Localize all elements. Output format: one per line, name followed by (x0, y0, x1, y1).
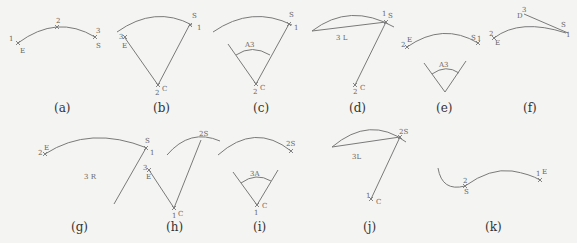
label: 1 (536, 170, 540, 178)
caption: (e) (436, 101, 452, 115)
label: S (192, 12, 197, 20)
label: S (464, 188, 469, 196)
point-marker (255, 203, 259, 207)
label: E (407, 36, 412, 44)
panel-e: 2 E S 1 A3 (e) (401, 33, 481, 115)
label: S (289, 11, 294, 19)
label: C (178, 210, 183, 218)
angle-side (257, 170, 278, 205)
label: 3 (96, 27, 100, 35)
arc (332, 130, 406, 147)
label: 1 (382, 10, 386, 18)
label: 1 (366, 192, 370, 200)
panel-c: S 1 A3 2 C (c) (213, 11, 298, 115)
label: 2 (463, 177, 467, 185)
point-marker (353, 83, 357, 87)
label: 1 (294, 24, 298, 32)
label: E (20, 47, 25, 55)
label: 3 (143, 164, 147, 172)
label: 3A (250, 170, 260, 178)
label: 1 (150, 149, 154, 157)
caption: (b) (153, 101, 170, 115)
label: 3 (119, 33, 123, 41)
label: S (471, 34, 476, 42)
panel-g: 2 E S 1 3 R (g) (38, 137, 154, 234)
label: 2S (199, 130, 208, 138)
label: 2S (286, 140, 295, 148)
caption: (i) (253, 220, 266, 234)
label: A3 (438, 61, 449, 69)
label: 3L (352, 153, 361, 161)
construction-diagram: 1 E 2 3 S (a) 3 E S 1 2 C (b) S 1 A3 2 C… (0, 0, 577, 243)
caption: (d) (349, 101, 366, 115)
label: 2 (253, 88, 257, 96)
radius-line (174, 140, 201, 208)
caption: (j) (363, 220, 376, 234)
chord-line (332, 137, 400, 147)
label: 2 (38, 149, 42, 157)
panel-a: 1 E 2 3 S (a) (9, 17, 101, 115)
arc (167, 137, 220, 155)
radius-line (125, 38, 158, 85)
arc (18, 27, 95, 43)
label: A3 (244, 41, 255, 49)
radius-line (355, 22, 386, 85)
curve (438, 168, 540, 187)
arc (117, 16, 192, 32)
label: E (146, 173, 151, 181)
caption: (k) (485, 220, 502, 234)
label: C (162, 85, 167, 93)
label: 2S (399, 128, 408, 136)
angle-arc (236, 50, 270, 56)
radius-line (149, 170, 174, 208)
panel-f: D 3 2 E S 1 (f) (489, 6, 570, 115)
label: 2 (56, 17, 60, 25)
arc (218, 137, 291, 155)
caption: (h) (166, 220, 183, 234)
label: 1 (9, 35, 13, 43)
point-marker (43, 152, 47, 156)
label: 3 R (84, 173, 97, 181)
label: C (260, 84, 265, 92)
label: S (96, 42, 101, 50)
radius-line (256, 24, 289, 84)
label: E (44, 144, 49, 152)
label: 2 (401, 41, 405, 49)
panel-b: 3 E S 1 2 C (b) (117, 12, 201, 115)
panel-j: 3L 2S 1 C (j) (332, 128, 408, 234)
label: C (360, 84, 365, 92)
panel-k: 2 S 1 E (k) (438, 168, 547, 234)
label: 3 (522, 6, 526, 14)
label: 2 (353, 88, 357, 96)
angle-arc (432, 69, 459, 74)
arc (494, 27, 566, 38)
radius-line (371, 137, 400, 199)
point-marker (254, 82, 258, 86)
panel-d: 3 L 1 S 2 C (d) (312, 10, 394, 115)
label: S (145, 137, 150, 145)
caption: (g) (71, 220, 88, 234)
label: E (542, 168, 547, 176)
label: 3 L (336, 34, 348, 42)
panel-i: 2S 3A 1 C (i) (218, 137, 295, 234)
point-marker (289, 149, 293, 153)
label: C (376, 198, 381, 206)
point-marker (144, 146, 148, 150)
label: 2 (155, 89, 159, 97)
radius-line (114, 148, 146, 204)
label: 1 (477, 35, 481, 43)
point-marker (93, 35, 97, 39)
label: 1 (566, 31, 570, 39)
radius-line (158, 24, 190, 85)
label: E (495, 39, 500, 47)
arc (407, 33, 478, 47)
label: 1 (197, 24, 201, 32)
point-marker (147, 168, 151, 172)
point-marker (16, 41, 20, 45)
label: 1 (172, 212, 176, 220)
point-marker (172, 206, 176, 210)
caption: (a) (54, 101, 71, 115)
point-marker (405, 45, 409, 49)
caption: (c) (253, 101, 269, 115)
label: E (122, 42, 127, 50)
